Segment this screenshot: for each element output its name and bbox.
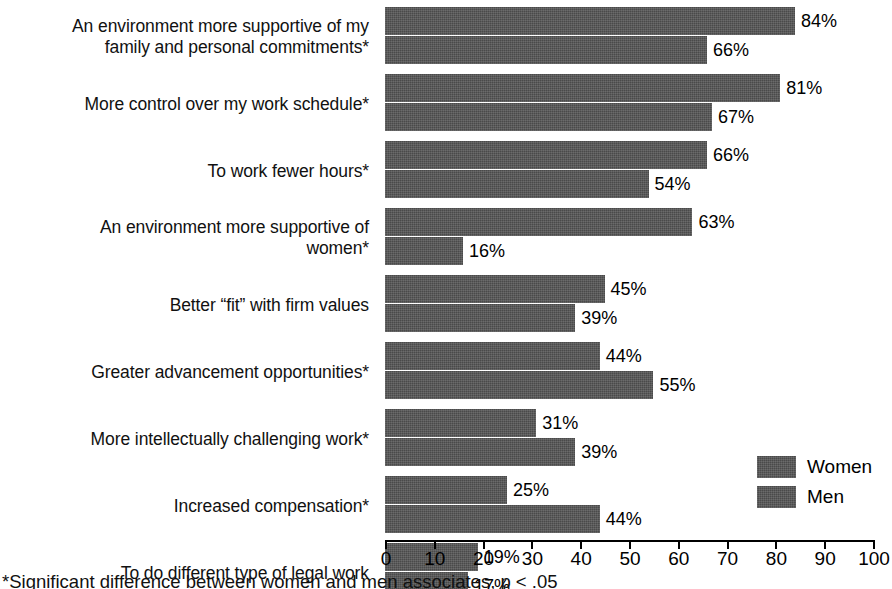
bar-value-label: 44% [600,346,642,367]
bar-men [385,237,463,265]
bar-women [385,74,780,102]
bar-value-label: 84% [795,11,837,32]
bar-track-women: 31% [385,409,892,437]
bar-track-women: 45% [385,275,892,303]
bar-group: 81%67% [385,74,892,134]
bar-men [385,36,707,64]
bar-value-label: 44% [600,509,642,530]
bar-track-women: 63% [385,208,892,236]
x-axis-tick-label: 40 [571,548,592,570]
legend-label: Men [807,486,844,508]
x-axis-tick-label: 0 [381,548,392,570]
category-row: To work fewer hours*66%54% [0,141,892,201]
chart-figure: An environment more supportive of my fam… [0,0,892,589]
bar-women [385,7,795,35]
bar-men [385,304,575,332]
legend-swatch-icon [757,456,796,478]
bar-track-men: 67% [385,103,892,131]
category-label: Increased compensation* [0,476,376,536]
x-axis-tick-label: 30 [522,548,543,570]
chart-footnote: *Significant difference between women an… [2,571,558,589]
bar-value-label: 39% [575,442,617,463]
bar-track-men: 54% [385,170,892,198]
legend-swatch-icon [757,486,796,508]
category-row: Better “fit” with firm values45%39% [0,275,892,335]
x-axis-tick-label: 10 [424,548,445,570]
x-axis-tick-label: 70 [717,548,738,570]
bar-group: 63%16% [385,208,892,268]
category-label: An environment more supportive of women* [0,208,376,268]
bar-women [385,476,507,504]
category-label: Better “fit” with firm values [0,275,376,335]
category-label: More control over my work schedule* [0,74,376,134]
bar-value-label: 66% [707,40,749,61]
bar-women [385,342,600,370]
bar-value-label: 81% [780,78,822,99]
bar-group: 44%55% [385,342,892,402]
bar-track-men: 39% [385,304,892,332]
bar-men [385,371,653,399]
bar-value-label: 45% [605,279,647,300]
bar-value-label: 66% [707,145,749,166]
category-label: An environment more supportive of my fam… [0,7,376,67]
bar-men [385,103,712,131]
bar-track-women: 66% [385,141,892,169]
x-axis-tick-label: 80 [766,548,787,570]
bar-women [385,141,707,169]
bar-group: 84%66% [385,7,892,67]
bar-group: 66%54% [385,141,892,201]
category-label: Greater advancement opportunities* [0,342,376,402]
bar-men [385,438,575,466]
bar-track-women: 81% [385,74,892,102]
legend-item: Women [757,452,872,482]
category-row: More control over my work schedule*81%67… [0,74,892,134]
bar-women [385,275,605,303]
x-axis-tick-label: 100 [858,548,890,570]
bar-value-label: 67% [712,107,754,128]
bar-women [385,409,536,437]
bar-value-label: 25% [507,480,549,501]
x-axis-tick-label: 20 [473,548,494,570]
bar-track-women: 44% [385,342,892,370]
bar-men [385,170,649,198]
category-label: More intellectually challenging work* [0,409,376,469]
bar-value-label: 55% [653,375,695,396]
category-row: Greater advancement opportunities*44%55% [0,342,892,402]
x-axis-tick-label: 90 [815,548,836,570]
x-axis-tick-label: 60 [668,548,689,570]
legend-item: Men [757,482,872,512]
bar-value-label: 54% [649,174,691,195]
bar-men [385,505,600,533]
bar-track-men: 16% [385,237,892,265]
bar-women [385,208,692,236]
x-axis-tick-label: 50 [619,548,640,570]
category-row: An environment more supportive of my fam… [0,7,892,67]
bar-group: 45%39% [385,275,892,335]
category-row: An environment more supportive of women*… [0,208,892,268]
chart-legend: WomenMen [757,452,872,512]
bar-value-label: 16% [463,241,505,262]
bar-value-label: 39% [575,308,617,329]
bar-track-women: 84% [385,7,892,35]
bar-value-label: 63% [692,212,734,233]
bar-track-men: 66% [385,36,892,64]
bar-track-men: 55% [385,371,892,399]
category-label: To work fewer hours* [0,141,376,201]
bar-value-label: 31% [536,413,578,434]
legend-label: Women [807,456,872,478]
